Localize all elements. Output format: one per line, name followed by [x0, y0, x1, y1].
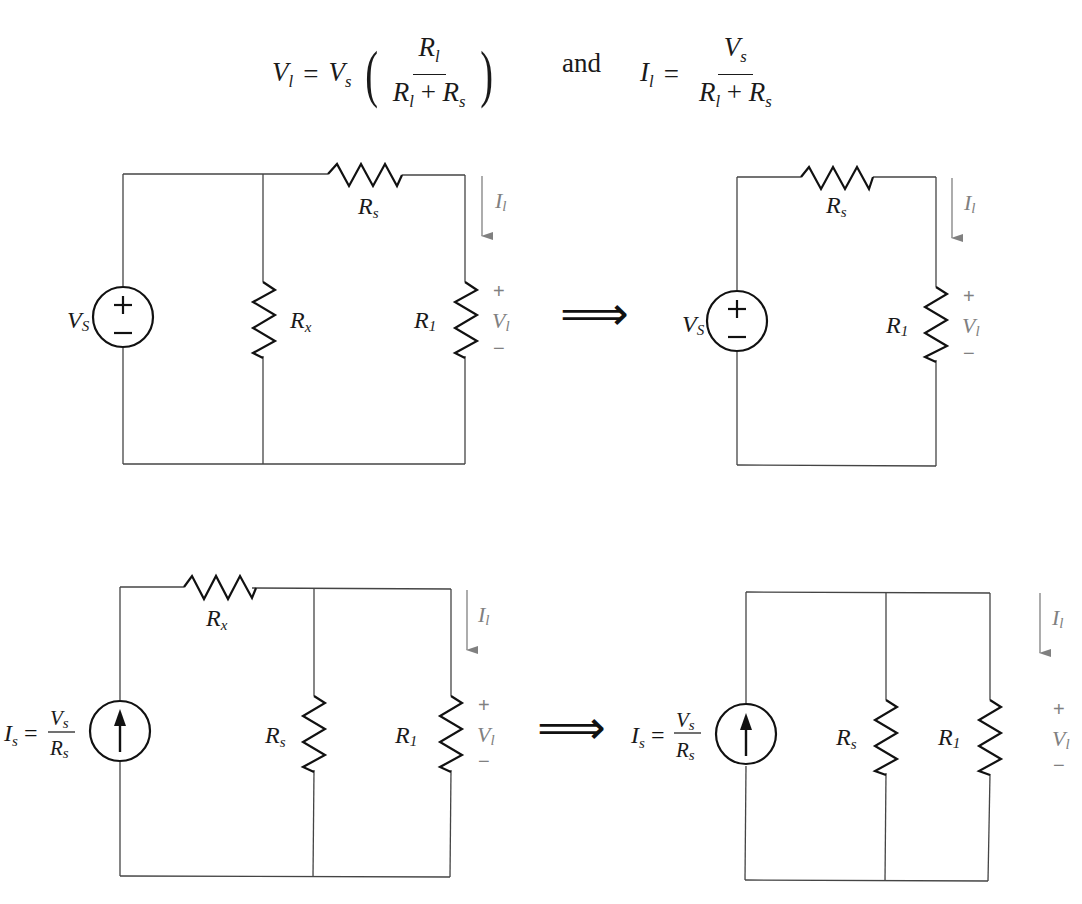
resistor-r1-icon	[455, 282, 477, 358]
resistor-rs-icon	[303, 696, 325, 772]
vl-plus: +	[478, 694, 490, 716]
implies-arrow-icon: ⟹	[537, 699, 606, 755]
r1-label: R1	[885, 312, 908, 339]
rx-label: Rx	[289, 307, 312, 335]
il-label: Il	[1051, 605, 1064, 631]
vl-label: Vl	[1052, 726, 1070, 752]
vl-label: Vl	[492, 308, 510, 334]
r1-label: R1	[394, 722, 417, 749]
vl-minus: −	[493, 337, 505, 359]
svg-text:Rs: Rs	[49, 736, 69, 761]
r1-label: R1	[937, 724, 960, 751]
vl-plus: +	[963, 285, 975, 307]
vl-minus: −	[963, 342, 975, 364]
circuit-bottom-left: Is = Vs Rs Rx Rs R1 Il + Vl −	[3, 576, 495, 877]
source-current-equation: Is = Vs Rs	[630, 708, 701, 763]
resistor-rs-icon	[875, 700, 897, 775]
resistor-r1-icon	[979, 700, 1001, 775]
vl-label: Vl	[962, 313, 980, 339]
source-label: VS	[682, 311, 705, 338]
implies-arrow-icon: ⟹	[560, 285, 629, 341]
svg-text:Is: Is	[630, 722, 645, 751]
source-current-equation: Is = Vs Rs	[3, 706, 75, 761]
vl-minus: −	[478, 750, 490, 772]
r1-label: R1	[413, 307, 436, 334]
vl-minus: −	[1053, 754, 1065, 776]
resistor-rx-icon	[253, 282, 275, 358]
rx-label: Rx	[205, 605, 228, 633]
rs-label: Rs	[825, 192, 847, 220]
svg-text:Vs: Vs	[676, 708, 695, 733]
circuit-top-right: VS Rs R1 Il + Vl −	[682, 167, 980, 466]
vl-plus: +	[493, 280, 505, 302]
source-label: VS	[67, 307, 90, 334]
rs-label: Rs	[835, 724, 857, 752]
voltage-source-icon	[707, 291, 767, 351]
current-source-icon	[716, 704, 776, 764]
svg-text:Vs: Vs	[50, 706, 69, 731]
current-source-icon	[90, 701, 150, 761]
circuit-top-left: VS Rs Rx R1 Il + Vl −	[67, 164, 510, 464]
vl-plus: +	[1053, 698, 1065, 720]
resistor-rs-icon	[328, 164, 402, 186]
svg-text:=: =	[24, 720, 38, 746]
circuit-bottom-right: Is = Vs Rs Rs R1 Il + Vl −	[630, 592, 1070, 881]
rs-label: Rs	[357, 193, 379, 221]
voltage-source-icon	[93, 287, 153, 347]
vl-label: Vl	[477, 722, 495, 748]
rs-label: Rs	[264, 722, 286, 750]
resistor-rs-icon	[801, 167, 873, 189]
resistor-r1-icon	[440, 696, 462, 772]
il-label: Il	[963, 190, 976, 216]
resistor-r1-icon	[925, 287, 947, 362]
circuit-diagrams: VS Rs Rx R1 Il + Vl − ⟹	[0, 0, 1082, 904]
svg-text:Is: Is	[3, 720, 18, 749]
il-label: Il	[494, 188, 507, 214]
svg-text:Rs: Rs	[675, 738, 695, 763]
il-label: Il	[477, 602, 490, 628]
svg-text:=: =	[651, 722, 665, 748]
resistor-rx-icon	[184, 576, 256, 599]
